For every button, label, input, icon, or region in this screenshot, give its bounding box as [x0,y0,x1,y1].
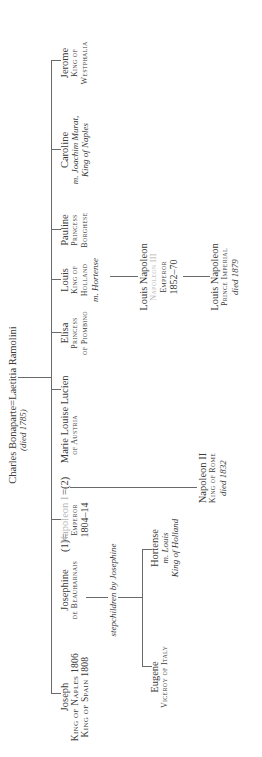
person-jerome: Jerome King of Westphalia [60,41,90,84]
parents-connector-line [18,377,51,378]
person-elisa: Elisa Princess of Piombino [60,311,90,355]
person-joseph: Joseph King of Naples 1806 King of Spain… [60,653,90,741]
person-napoleon-ii: Napoleon II King of Rome died 1832 [198,453,228,503]
person-caroline: Caroline m. Joachim Murat, King of Naple… [60,116,90,185]
person-hortense: Hortense m. Louis King of Holland [150,519,180,578]
person-prince-imperial: Louis Napoleon Prince Imperial died 1879 [210,243,240,310]
father-name: Charles Bonaparte [7,406,18,484]
prince-imperial-connector-line [183,276,210,277]
father-death-note: (died 1785) [18,326,28,534]
parents-label: Charles Bonaparte=Laetitia Ramolini (die… [8,326,28,484]
person-lucien: Lucien [60,375,70,404]
marriage-sign: = [7,400,18,406]
napoleon-ii-connector-line [70,487,197,488]
person-marie-louise: Marie Louise of Austria [60,407,80,463]
stepchildren-label: stepchildren by Josephine [108,541,118,638]
mother-name: Laetitia Ramolini [7,326,18,400]
person-napoleon-i: Napoleon I Emperor 1804–14 [60,497,90,544]
person-louis: Louis King of Holland m. Hortense [60,258,100,302]
person-pauline: Pauline Princess Borghese [60,212,90,247]
person-napoleon-iii: Louis Napoleon Napoleon III Emperor 1852… [139,243,179,310]
second-marriage-mark: =(2) [60,477,70,495]
stepchildren-bar-line [142,549,143,667]
person-eugene: Eugene Viceroy of Italy [150,646,170,708]
family-tree-diagram: Charles Bonaparte=Laetitia Ramolini (die… [0,0,262,757]
napoleon-iii-connector-line [110,276,138,277]
person-josephine: Josephine de Beauharnais [60,561,80,620]
siblings-bar-line [51,60,52,694]
